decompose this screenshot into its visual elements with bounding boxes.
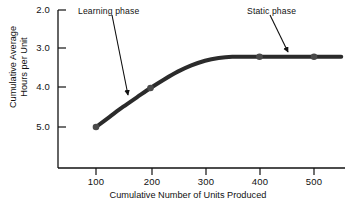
data-point-markers bbox=[93, 54, 318, 131]
y-axis-title: Cumulative Average Hours per Unit bbox=[8, 7, 30, 127]
learning-curve-line bbox=[96, 57, 341, 127]
static-phase-arrow bbox=[270, 15, 288, 52]
chart-plot-area bbox=[0, 0, 349, 201]
x-axis-ticks bbox=[96, 168, 314, 175]
y-axis-title-line-2: Hours per Unit bbox=[19, 37, 29, 96]
data-point-marker bbox=[93, 124, 100, 131]
x-tick-label-500: 500 bbox=[299, 176, 329, 187]
x-tick-label-300: 300 bbox=[191, 176, 221, 187]
annotation-learning-phase: Learning phase bbox=[78, 6, 139, 16]
learning-phase-arrow bbox=[112, 15, 128, 95]
x-axis-title: Cumulative Number of Units Produced bbox=[58, 190, 318, 200]
data-point-marker bbox=[311, 54, 318, 61]
learning-curve-chart: 2.0 3.0 4.0 5.0 100 200 300 400 500 Cumu… bbox=[0, 0, 349, 201]
x-tick-label-400: 400 bbox=[245, 176, 275, 187]
y-axis-ticks bbox=[58, 10, 66, 127]
x-tick-label-200: 200 bbox=[137, 176, 167, 187]
data-point-marker bbox=[147, 85, 154, 92]
annotation-static-phase: Static phase bbox=[247, 6, 296, 16]
x-tick-label-100: 100 bbox=[81, 176, 111, 187]
data-point-marker bbox=[256, 54, 263, 61]
y-axis-title-line-1: Cumulative Average bbox=[8, 26, 18, 108]
